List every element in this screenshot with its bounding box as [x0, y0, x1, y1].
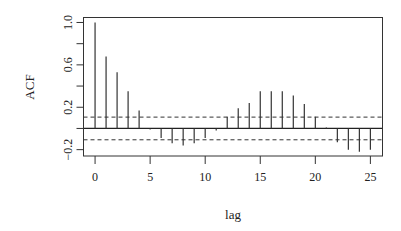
y-axis: −0.20.20.61.0 [61, 15, 84, 161]
x-tick-label: 25 [364, 170, 376, 184]
x-axis: 0510152025 [92, 156, 376, 184]
y-tick-label: 0.6 [61, 57, 75, 72]
acf-chart: 0510152025 −0.20.20.61.0 lag ACF [0, 0, 401, 231]
x-axis-label: lag [225, 207, 241, 222]
y-tick-label: −0.2 [61, 139, 75, 161]
y-tick-label: 1.0 [61, 15, 75, 30]
y-tick-label: 0.2 [61, 100, 75, 115]
plot-area [84, 22, 383, 151]
x-tick-label: 5 [147, 170, 153, 184]
x-tick-label: 10 [199, 170, 211, 184]
x-tick-label: 15 [254, 170, 266, 184]
x-tick-label: 0 [92, 170, 98, 184]
y-axis-label: ACF [22, 74, 37, 99]
x-tick-label: 20 [309, 170, 321, 184]
